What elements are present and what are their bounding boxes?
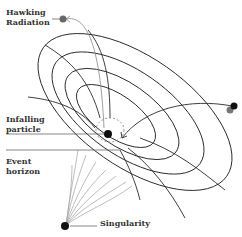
infalling-particle-icon [104,130,112,138]
singularity-point-icon [61,222,69,230]
hawking-particle-icon [60,16,67,23]
infalling-particle-label-line2: particle [6,125,45,135]
hawking-radiation-label-line2: Radiation [6,18,50,28]
event-horizon-label-line2: horizon [6,167,40,177]
hawking-radiation-label: Hawking Radiation [6,8,50,27]
orbiting-particle-icon-dark [231,103,238,110]
event-horizon-label: Event horizon [6,157,40,176]
singularity-funnel-lines [66,150,132,225]
infalling-particle-label: Infalling particle [6,115,45,134]
funnel-rings [12,3,242,222]
orbiting-particle-path [121,103,232,138]
singularity-label: Singularity [100,219,150,229]
black-hole-diagram: Hawking Radiation Infalling particle Eve… [0,0,242,237]
